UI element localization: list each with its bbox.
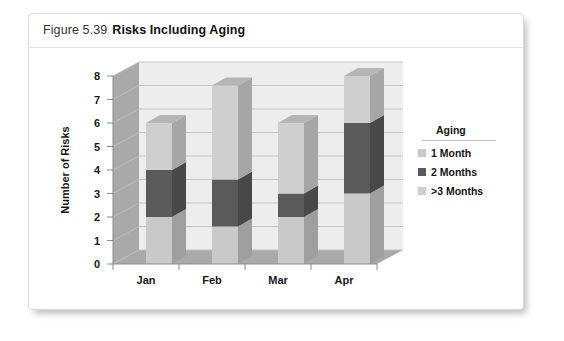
column-apr[interactable]	[344, 68, 384, 264]
screenshot-root: Figure 5.39Risks Including Aging	[0, 0, 564, 341]
segment-jan-1-month-side	[172, 209, 186, 264]
legend-swatch-1-month	[418, 149, 426, 157]
y-axis	[107, 76, 113, 264]
figure-card: Figure 5.39Risks Including Aging	[28, 13, 524, 310]
y-tick-2: 2	[94, 211, 100, 223]
column-mar[interactable]	[278, 115, 318, 264]
segment-apr-gt3-months-front	[344, 76, 370, 123]
segment-jan-2-months-side	[172, 162, 186, 217]
y-tick-0: 0	[94, 258, 100, 270]
segment-feb-2-months-side	[238, 172, 252, 227]
legend-label-2-months: 2 Months	[431, 166, 477, 178]
legend-swatch-gt3-months	[418, 187, 426, 195]
x-axis	[113, 264, 377, 270]
segment-jan-1-month-front	[146, 217, 172, 264]
segment-feb-1-month-front	[212, 227, 238, 265]
segment-feb-gt3-months-side	[238, 78, 252, 180]
figure-number: Figure 5.39	[43, 23, 107, 37]
y-tick-4: 4	[94, 164, 101, 176]
segment-feb-2-months-front	[212, 180, 238, 227]
segment-apr-gt3-months-side	[370, 68, 384, 123]
legend-item-2-months[interactable]: 2 Months	[418, 166, 518, 178]
segment-feb-1-month-side	[238, 219, 252, 265]
y-tick-6: 6	[94, 117, 100, 129]
segment-apr-1-month-side	[370, 186, 384, 265]
x-label-jan: Jan	[137, 274, 156, 286]
segment-feb-gt3-months-front	[212, 86, 238, 180]
legend-label-gt3-months: >3 Months	[431, 185, 483, 197]
segment-mar-gt3-months-side	[304, 115, 318, 194]
legend-item-gt3-months[interactable]: >3 Months	[418, 185, 518, 197]
segment-apr-2-months-side	[370, 115, 384, 194]
y-tick-8: 8	[94, 70, 100, 82]
legend-title: Aging	[436, 124, 518, 136]
chart-area: 8 7 6 5 4 3 2 1 0 Number of Risks	[29, 48, 523, 309]
column-feb[interactable]	[212, 78, 252, 265]
legend-divider	[422, 140, 496, 141]
figure-caption: Figure 5.39Risks Including Aging	[43, 23, 245, 37]
legend-label-1-month: 1 Month	[431, 147, 471, 159]
segment-mar-1-month-front	[278, 217, 304, 264]
y-tick-5: 5	[94, 141, 100, 153]
segment-mar-gt3-months-front	[278, 123, 304, 194]
column-jan[interactable]	[146, 115, 186, 264]
x-label-feb: Feb	[202, 274, 222, 286]
segment-mar-1-month-side	[304, 209, 318, 264]
x-label-mar: Mar	[268, 274, 288, 286]
segment-apr-1-month-front	[344, 194, 370, 265]
figure-title: Risks Including Aging	[112, 23, 245, 37]
segment-jan-gt3-months-side	[172, 115, 186, 170]
segment-jan-2-months-front	[146, 170, 172, 217]
x-label-apr: Apr	[335, 274, 355, 286]
chart-legend: Aging 1 Month 2 Months >3 Months	[418, 124, 518, 204]
y-tick-1: 1	[94, 235, 100, 247]
segment-jan-gt3-months-front	[146, 123, 172, 170]
legend-swatch-2-months	[418, 168, 426, 176]
segment-mar-2-months-front	[278, 194, 304, 218]
y-tick-7: 7	[94, 94, 100, 106]
y-tick-3: 3	[94, 188, 100, 200]
y-axis-title: Number of Risks	[59, 126, 71, 213]
segment-apr-2-months-front	[344, 123, 370, 194]
legend-item-1-month[interactable]: 1 Month	[418, 147, 518, 159]
